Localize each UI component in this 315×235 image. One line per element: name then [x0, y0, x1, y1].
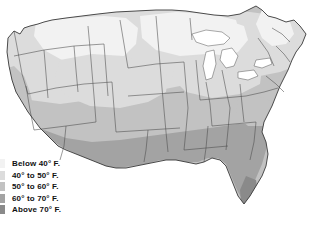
legend-swatch-below-40	[0, 159, 5, 168]
legend-label-below-40: Below 40° F.	[12, 159, 60, 168]
legend-label-40-50: 40° to 50° F.	[12, 171, 59, 180]
legend-label-60-70: 60° to 70° F.	[12, 194, 59, 203]
temperature-zone-map: Below 40° F. 40° to 50° F. 50° to 60° F.…	[0, 0, 315, 235]
legend-swatch-60-70	[0, 194, 5, 203]
legend-label-50-60: 50° to 60° F.	[12, 182, 59, 191]
map-legend: Below 40° F. 40° to 50° F. 50° to 60° F.…	[0, 158, 110, 216]
legend-item-50-60: 50° to 60° F.	[0, 181, 110, 192]
legend-label-above-70: Above 70° F.	[12, 205, 61, 214]
legend-swatch-50-60	[0, 182, 5, 191]
legend-swatch-40-50	[0, 171, 5, 180]
legend-item-60-70: 60° to 70° F.	[0, 193, 110, 204]
legend-item-40-50: 40° to 50° F.	[0, 170, 110, 181]
legend-item-below-40: Below 40° F.	[0, 158, 110, 169]
legend-swatch-above-70	[0, 205, 5, 214]
legend-item-above-70: Above 70° F.	[0, 204, 110, 215]
